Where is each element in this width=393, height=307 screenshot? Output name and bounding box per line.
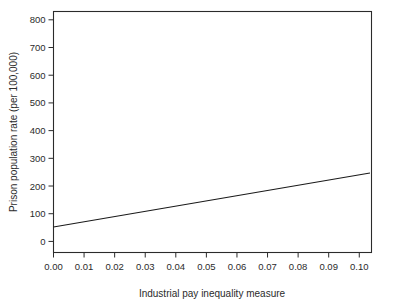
y-tick-label: 200 [30, 181, 46, 192]
x-axis-title: Industrial pay inequality measure [139, 288, 286, 299]
y-axis-title: Prison population rate (per 100,000) [8, 52, 19, 212]
x-tick-label: 0.04 [167, 261, 186, 272]
x-tick-label: 0.01 [75, 261, 94, 272]
x-tick-label: 0.05 [197, 261, 216, 272]
x-tick-label: 0.08 [289, 261, 308, 272]
x-tick-label: 0.10 [350, 261, 369, 272]
x-tick-label: 0.00 [44, 261, 63, 272]
y-tick-label: 300 [30, 153, 46, 164]
scatter-chart-figure: 0.000.010.020.030.040.050.060.070.080.09… [0, 0, 393, 307]
y-tick-label: 0 [40, 236, 45, 247]
regression-trend-line [54, 173, 370, 227]
x-axis-tick-labels: 0.000.010.020.030.040.050.060.070.080.09… [44, 261, 368, 272]
y-axis-ticks [49, 20, 54, 242]
trend-line-segment [54, 173, 370, 227]
x-tick-label: 0.03 [136, 261, 155, 272]
y-tick-label: 500 [30, 97, 46, 108]
x-axis-ticks [54, 253, 360, 258]
y-tick-label: 600 [30, 70, 46, 81]
y-tick-label: 100 [30, 208, 46, 219]
y-tick-label: 700 [30, 42, 46, 53]
plot-area-svg: 0.000.010.020.030.040.050.060.070.080.09… [0, 0, 393, 307]
plot-frame [54, 12, 372, 253]
x-tick-label: 0.02 [105, 261, 124, 272]
x-tick-label: 0.07 [258, 261, 277, 272]
y-tick-label: 400 [30, 125, 46, 136]
x-tick-label: 0.09 [319, 261, 338, 272]
y-axis-tick-labels: 0100200300400500600700800 [30, 14, 46, 247]
y-tick-label: 800 [30, 14, 46, 25]
x-tick-label: 0.06 [228, 261, 247, 272]
